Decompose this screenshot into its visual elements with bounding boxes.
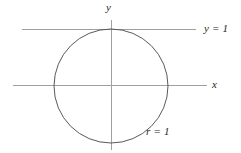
circle-label: r = 1 (146, 126, 170, 137)
y-axis-label: y (106, 2, 111, 13)
horizontal-line-label: y = 1 (204, 23, 228, 34)
polar-circle-figure: y x y = 1 r = 1 (0, 0, 241, 153)
x-axis-label: x (212, 79, 217, 90)
